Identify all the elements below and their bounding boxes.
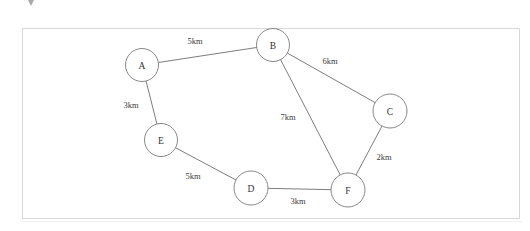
graph-node-b[interactable]: B (257, 29, 290, 62)
edge-weight-label-b-f: 7km (280, 112, 296, 122)
node-label-f: F (345, 186, 350, 196)
edge-weight-label-e-d: 5km (185, 171, 201, 181)
edge-c-f (356, 126, 382, 175)
graph-node-f[interactable]: F (331, 173, 365, 207)
node-label-b: B (270, 41, 276, 51)
graph-canvas: ABCDEF 5km6km3km7km2km5km3km (0, 0, 530, 231)
graph-node-a[interactable]: A (126, 49, 159, 82)
edge-weight-label-c-f: 2km (376, 152, 392, 162)
node-label-d: D (248, 184, 255, 194)
nodes-layer: ABCDEF (126, 29, 408, 208)
edge-a-b (158, 47, 256, 62)
graph-node-d[interactable]: D (234, 171, 268, 205)
edge-weight-label-b-c: 6km (322, 56, 338, 66)
edge-a-e (146, 81, 157, 124)
edges-layer (146, 47, 382, 189)
graph-node-c[interactable]: C (373, 94, 407, 128)
edge-weight-label-d-f: 3km (290, 196, 306, 206)
node-label-c: C (387, 107, 393, 117)
edge-d-f (268, 188, 331, 189)
edge-weight-label-a-b: 5km (187, 36, 203, 46)
node-label-a: A (139, 61, 146, 71)
graph-node-e[interactable]: E (145, 124, 178, 157)
screenshot-root: ABCDEF 5km6km3km7km2km5km3km (0, 0, 530, 231)
node-label-e: E (158, 136, 164, 146)
edge-weight-label-a-e: 3km (123, 100, 139, 110)
